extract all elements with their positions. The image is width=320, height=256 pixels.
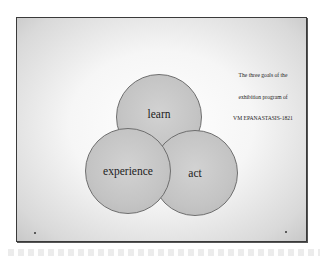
caption-line-1: The three goals of the bbox=[219, 72, 307, 78]
cropped-text-line bbox=[8, 249, 320, 256]
circle-label-learn: learn bbox=[148, 108, 171, 120]
slide-frame: learn act experience The three goals of … bbox=[16, 17, 307, 242]
circle-label-act: act bbox=[188, 167, 201, 179]
caption-line-3: VM EPANASTASIS-1821 bbox=[219, 115, 307, 121]
caption-line-2: exhibition program of bbox=[219, 94, 307, 100]
circle-experience: experience bbox=[85, 128, 171, 214]
bullet-dot-icon bbox=[285, 231, 287, 233]
circle-label-experience: experience bbox=[103, 165, 153, 177]
bullet-dot-icon bbox=[34, 232, 36, 234]
